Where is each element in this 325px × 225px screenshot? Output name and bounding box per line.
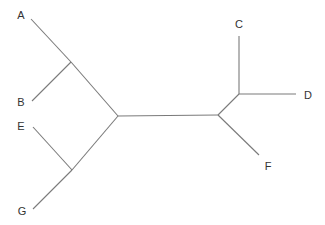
phylogenetic-tree — [0, 0, 325, 225]
edge-n-right-n-cd — [218, 94, 239, 115]
leaf-label-f: F — [265, 161, 272, 172]
leaf-label-g: G — [18, 206, 27, 217]
edge-g-n-eg — [33, 170, 72, 209]
leaf-label-e: E — [17, 121, 24, 132]
leaf-label-b: B — [17, 97, 24, 108]
leaf-label-d: D — [304, 90, 312, 101]
edge-b-n-ab — [32, 62, 71, 101]
edge-a-n-ab — [31, 19, 71, 62]
edge-e-n-eg — [33, 127, 72, 170]
leaf-label-a: A — [17, 10, 24, 21]
edge-f-n-right — [218, 115, 259, 155]
edge-n-ab-n-center — [71, 62, 118, 116]
edge-n-eg-n-center — [72, 116, 118, 170]
leaf-label-c: C — [235, 19, 243, 30]
edge-n-center-n-right — [118, 115, 218, 116]
